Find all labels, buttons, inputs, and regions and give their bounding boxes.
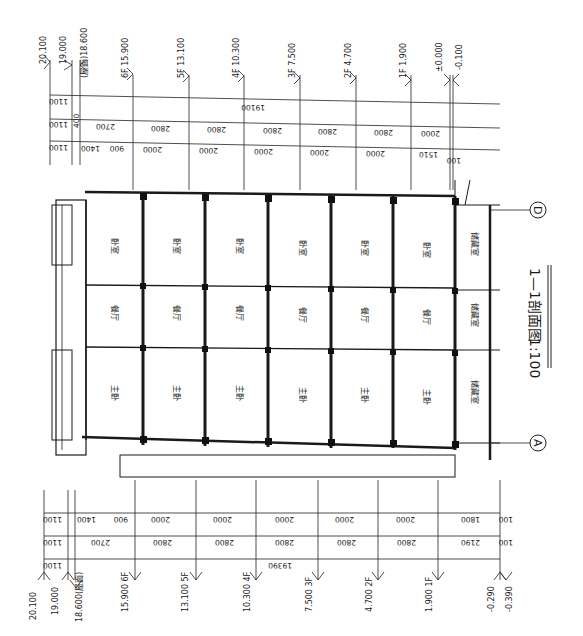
room-storage-1: 储藏室 (470, 232, 480, 256)
dim-top-floor: 2000 (421, 129, 440, 138)
elev-3f-left: 7.500 3F (305, 576, 314, 612)
dim-bottom-floor: 2800 (275, 538, 294, 547)
dim-bottom-floor: 2800 (153, 538, 172, 547)
room-dining-4f: 餐厅 (235, 305, 244, 321)
dim-bottom-detail: 2000 (213, 515, 232, 524)
room-master-2f: 主卧 (360, 387, 370, 403)
elev-6f-right: 6F 15.900 (121, 38, 130, 78)
title-scale: 1:100 (527, 338, 543, 378)
room-dining-2f: 餐厅 (360, 307, 369, 323)
room-bedroom-1f: 卧室 (422, 242, 432, 258)
dim-top-floor: 2800 (318, 127, 337, 136)
axis-d-label: D (531, 206, 544, 214)
dim-top-floor: 2800 (207, 125, 226, 134)
dim-top-detail: 2000 (143, 145, 162, 154)
top-dimension-chains (50, 60, 500, 190)
dim-bottom-detail: 1400 (77, 515, 96, 524)
building-section (52, 180, 500, 477)
room-storage-2: 储藏室 (470, 303, 480, 327)
dim-top-floor: 1100 (49, 120, 68, 129)
dim-top-detail: 2000 (199, 146, 218, 155)
room-dining-1f: 餐厅 (422, 309, 431, 325)
elev-6f-left: 15.900 6F (121, 571, 130, 612)
dim-bottom-detail: 2000 (396, 515, 415, 524)
room-bedroom-5f: 卧室 (172, 238, 182, 254)
dim-bottom-floor: 1100 (43, 538, 62, 547)
elev-18600-left: 18.600(屋面) (75, 572, 84, 622)
elev-19000-right: 19.000 (59, 36, 68, 64)
elev-20100-right: 20.100 (39, 36, 48, 64)
section-drawing-sheet: 20.100 19.000 (屋面)18.600 6F 15.900 5F 13… (0, 0, 583, 636)
dim-top-detail: 900 (109, 144, 124, 153)
dim-bottom-detail: 1100 (43, 515, 62, 524)
dim-top-detail: 2000 (310, 148, 329, 157)
room-master-6f: 主卧 (110, 385, 120, 401)
bottom-dimension-text: 1100 1400 900 2000 2000 2000 2000 2000 1… (43, 515, 513, 570)
axis-a-label: A (531, 439, 544, 447)
elev-neg0100-right: -0.100 (455, 44, 464, 70)
title-text: 1—1剖面图 (527, 268, 543, 342)
dim-bottom-overall: 1100 (43, 561, 62, 570)
dim-bottom-detail: 100 (498, 515, 513, 524)
dim-bottom-overall: 19390 (268, 561, 292, 570)
elev-3f-right: 3F 7.500 (288, 43, 297, 78)
dim-bottom-detail: 2000 (335, 515, 354, 524)
dim-top-detail: 2000 (254, 147, 273, 156)
dim-top-1100: 1100 (49, 97, 68, 106)
dim-top-detail: 1100 (49, 143, 68, 152)
dim-bottom-floor: 2800 (337, 538, 356, 547)
room-master-5f: 主卧 (172, 385, 182, 401)
dim-bottom-floor: 2190 (461, 538, 480, 547)
dim-top-detail: 1400 (81, 144, 100, 153)
dim-bottom-floor: 2800 (397, 538, 416, 547)
dim-bottom-detail: 900 (113, 515, 128, 524)
dim-top-floor: 400 (72, 113, 81, 128)
dim-bottom-detail: 1800 (461, 515, 480, 524)
room-labels: 卧室 卧室 卧室 卧室 卧室 卧室 餐厅 餐厅 餐厅 餐厅 餐厅 餐厅 主卧 主… (110, 232, 480, 405)
elev-2f-left: 4.700 2F (365, 576, 374, 612)
room-master-3f: 主卧 (298, 387, 308, 403)
room-bedroom-4f: 卧室 (235, 238, 245, 254)
room-master-4f: 主卧 (235, 385, 245, 401)
dim-bottom-floor: 2800 (215, 538, 234, 547)
dim-top-detail: 100 (446, 156, 461, 165)
dim-bottom-detail: 2000 (151, 515, 170, 524)
dim-bottom-floor: 100 (498, 538, 513, 547)
room-dining-6f: 餐厅 (110, 305, 119, 321)
elev-2f-right: 2F 4.700 (344, 43, 353, 78)
room-bedroom-2f: 卧室 (360, 240, 370, 256)
bottom-level-markers (38, 572, 512, 588)
dim-top-floor: 2800 (151, 124, 170, 133)
bottom-elevation-labels: 20.100 19.000 18.600(屋面) 15.900 6F 13.10… (29, 571, 514, 622)
top-elevation-labels: 20.100 19.000 (屋面)18.600 6F 15.900 5F 13… (39, 28, 464, 78)
elev-1f-left: 1.900 1F (425, 576, 434, 612)
dim-top-floor: 2800 (263, 126, 282, 135)
room-storage-3: 储藏室 (470, 380, 480, 404)
room-master-1f: 主卧 (422, 389, 432, 405)
dim-top-floor: 2800 (374, 128, 393, 137)
elev-0-right: ±0.000 (435, 42, 444, 72)
dim-bottom-floor: 2700 (91, 538, 110, 547)
room-dining-3f: 餐厅 (298, 307, 307, 323)
top-level-markers (44, 55, 459, 86)
elev-4f-left: 10.300 4F (243, 571, 252, 612)
elev-18600-right: (屋面)18.600 (80, 28, 89, 78)
elev-19000-left: 19.000 (51, 587, 60, 615)
dim-bottom-detail: 2000 (275, 515, 294, 524)
elev-neg0390-left: -0.390 (505, 586, 514, 612)
dim-top-floor: 2700 (96, 122, 115, 131)
dim-top-19100: 19100 (241, 103, 265, 112)
room-bedroom-3f: 卧室 (298, 240, 308, 256)
top-dimension-text: 1100 19100 1100 400 2700 2800 2800 2800 … (49, 97, 461, 165)
room-bedroom-6f: 卧室 (110, 238, 120, 254)
dim-top-detail: 1510 (419, 150, 438, 159)
elev-1f-right: 1F 1.900 (399, 43, 408, 78)
elev-20100-left: 20.100 (29, 592, 38, 620)
dim-top-detail: 2000 (366, 149, 385, 158)
elev-5f-left: 13.100 5F (181, 571, 190, 612)
room-dining-5f: 餐厅 (172, 305, 181, 321)
drawing-title: 1—1剖面图 1:100 (527, 265, 551, 378)
elev-neg0290-left: -0.290 (487, 586, 496, 612)
